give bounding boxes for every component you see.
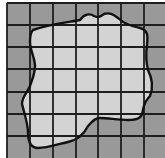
grid-diagram [0,0,165,158]
